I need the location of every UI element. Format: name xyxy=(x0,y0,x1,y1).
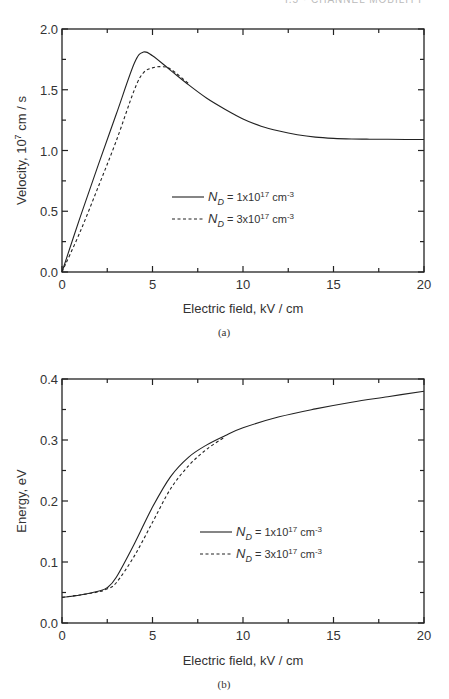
y-tick-label: 0.4 xyxy=(40,372,58,387)
panel-caption: (a) xyxy=(218,326,231,339)
x-tick-label: 10 xyxy=(236,277,250,292)
y-tick-label: 1.5 xyxy=(40,83,58,98)
series-solid-line xyxy=(62,52,424,272)
series-solid-line xyxy=(62,391,424,597)
x-tick-label: 0 xyxy=(58,277,65,292)
y-axis-label: Velocity, 107 cm / s xyxy=(13,96,29,205)
plot-frame xyxy=(62,379,424,623)
y-tick-label: 1.0 xyxy=(40,144,58,159)
x-axis-label: Electric field, kV / cm xyxy=(183,653,304,668)
legend-label: ND = 1x1017 cm-3 xyxy=(236,524,323,542)
y-tick-label: 0.3 xyxy=(40,433,58,448)
legend-label: ND = 1x1017 cm-3 xyxy=(208,189,295,207)
series-dashed-line xyxy=(62,67,189,272)
y-tick-label: 0.0 xyxy=(40,616,58,631)
panel-caption: (b) xyxy=(218,678,231,691)
chart-b: 051015200.00.10.20.30.4Electric field, k… xyxy=(14,372,431,691)
legend-label: ND = 3x1017 cm-3 xyxy=(208,211,295,229)
plot-frame xyxy=(62,29,424,272)
x-tick-label: 20 xyxy=(417,628,431,643)
x-tick-label: 15 xyxy=(326,628,340,643)
series-dashed-line xyxy=(62,437,225,597)
x-tick-label: 5 xyxy=(149,277,156,292)
x-tick-label: 15 xyxy=(326,277,340,292)
figure: 051015200.00.51.01.52.0Electric field, k… xyxy=(0,0,449,699)
y-tick-label: 2.0 xyxy=(40,22,58,37)
y-tick-label: 0.0 xyxy=(40,265,58,280)
x-tick-label: 0 xyxy=(58,628,65,643)
x-tick-label: 20 xyxy=(417,277,431,292)
y-tick-label: 0.5 xyxy=(40,204,58,219)
y-tick-label: 0.2 xyxy=(40,494,58,509)
x-tick-label: 10 xyxy=(236,628,250,643)
y-tick-label: 0.1 xyxy=(40,555,58,570)
chart-a: 051015200.00.51.01.52.0Electric field, k… xyxy=(13,22,431,339)
x-axis-label: Electric field, kV / cm xyxy=(183,301,304,316)
legend-label: ND = 3x1017 cm-3 xyxy=(236,546,323,564)
x-tick-label: 5 xyxy=(149,628,156,643)
y-axis-label: Energy, eV xyxy=(14,469,29,533)
